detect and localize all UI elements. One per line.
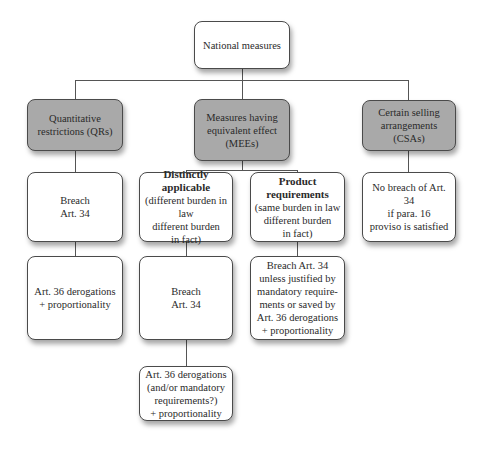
node-label-line: if para. 16 xyxy=(388,207,431,220)
node-certain-selling-arrangements: Certain selling arrangements (CSAs) xyxy=(362,100,456,151)
diagram-canvas: National measures Quantitative restricti… xyxy=(0,0,480,452)
node-title-line: requirements xyxy=(266,188,329,201)
node-label-line: + proportionality xyxy=(150,407,222,420)
node-sub-line: different burden xyxy=(264,214,332,227)
node-qr-art36-derogations: Art. 36 derogations + proportionality xyxy=(27,256,123,340)
connector-to-csa xyxy=(408,80,409,100)
node-sub-line: in fact) xyxy=(171,233,201,246)
node-product-requirements: Product requirements (same burden in law… xyxy=(250,172,345,242)
node-label-line: ments or saved by xyxy=(259,298,335,311)
node-label-line: restrictions (QRs) xyxy=(38,125,113,138)
node-label-line: Breach Art. 34 xyxy=(267,259,329,272)
node-sub-line: (different burden in law xyxy=(143,194,229,220)
node-label-line: Certain selling xyxy=(378,106,440,119)
connector-to-mee xyxy=(242,80,243,99)
connector-qr-breach-to-derogations xyxy=(75,242,76,256)
node-qr-breach-art34: Breach Art. 34 xyxy=(27,172,123,242)
node-label-line: arrangements (CSAs) xyxy=(366,119,452,145)
node-label-line: Art. 36 derogations xyxy=(145,368,226,381)
node-label-line: equivalent effect xyxy=(207,124,277,137)
node-label-line: Art. 34 xyxy=(60,207,90,220)
node-title-line: applicable xyxy=(162,181,210,194)
node-label-line: Breach xyxy=(60,194,90,207)
node-pr-breach-art34: Breach Art. 34 unless justified by manda… xyxy=(250,256,345,340)
node-sub-line: different burden xyxy=(152,220,220,233)
node-title-line: Distinctly xyxy=(163,168,208,181)
node-sub-line: (same burden in law xyxy=(255,201,340,214)
node-sub-line: in fact) xyxy=(282,227,312,240)
connector-da-breach-to-derogations xyxy=(186,340,187,366)
node-csa-no-breach: No breach of Art. 34 if para. 16 proviso… xyxy=(362,172,456,242)
node-label-line: Art. 36 derogations xyxy=(34,285,115,298)
node-label-line: Art. 34 xyxy=(171,298,201,311)
node-label-line: (and/or mandatory xyxy=(147,381,225,394)
node-label-line: requirements?) xyxy=(155,394,218,407)
connector-csa-to-result xyxy=(408,151,409,172)
connector-pr-to-breach xyxy=(297,242,298,256)
node-label-line: Breach xyxy=(171,285,201,298)
node-label-line: unless justified by xyxy=(259,272,335,285)
node-label-line: Art. 36 derogations xyxy=(257,311,338,324)
connector-mee-down xyxy=(242,161,243,170)
node-distinctly-applicable: Distinctly applicable (different burden … xyxy=(139,172,233,242)
node-label-line: + proportionality xyxy=(39,298,111,311)
node-label: National measures xyxy=(203,39,281,52)
node-label-line: Measures having xyxy=(206,111,277,124)
node-label-line: + proportionality xyxy=(262,324,334,337)
connector-root-down xyxy=(242,69,243,80)
node-national-measures: National measures xyxy=(194,21,290,69)
node-quantitative-restrictions: Quantitative restrictions (QRs) xyxy=(27,99,123,151)
node-label-line: (MEEs) xyxy=(225,137,258,150)
node-label-line: proviso is satisfied xyxy=(370,220,449,233)
node-da-art36-derogations: Art. 36 derogations (and/or mandatory re… xyxy=(139,366,233,421)
node-label-line: Quantitative xyxy=(49,112,101,125)
node-label-line: mandatory require- xyxy=(257,285,338,298)
node-measures-equivalent-effect: Measures having equivalent effect (MEEs) xyxy=(194,99,290,161)
node-da-breach-art34: Breach Art. 34 xyxy=(139,256,233,340)
connector-qr-to-breach xyxy=(75,151,76,172)
node-title-line: Product xyxy=(279,175,317,188)
node-label-line: No breach of Art. 34 xyxy=(366,181,452,207)
connector-to-qr xyxy=(75,80,76,99)
